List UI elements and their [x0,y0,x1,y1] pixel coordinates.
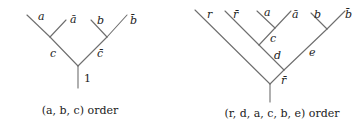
label-a-bar: ā [292,8,299,21]
edge-r [195,10,270,84]
caption-left: (a, b, c) order [42,104,119,117]
label-e: e [309,46,316,59]
label-c: c [50,47,56,60]
caption-right: (r, d, a, c, b, e) order [224,107,340,120]
edge-b-bar [107,15,127,37]
label-a: a [38,10,45,23]
label-a: a [264,6,271,19]
label-c: c [270,32,276,45]
diagram-canvas: a ā b b̄ c c̄ 1 (a, b, c) order r r̄ a [0,0,364,128]
label-d: d [274,49,281,62]
label-r-bar-root: r̄ [281,74,287,87]
label-b-bar: b̄ [345,8,352,21]
left-tree: a ā b b̄ c c̄ 1 (a, b, c) order [27,10,137,117]
edge-r-bar-leaf [225,11,259,45]
label-r-bar-leaf: r̄ [233,8,239,21]
edge-b-bar [327,11,345,29]
label-a-bar: ā [70,13,77,26]
label-root-1: 1 [84,72,91,85]
label-r: r [207,8,213,21]
right-tree: r r̄ a ā b b̄ c d e r̄ (r, d, a, c, b, e… [195,6,352,120]
edge-e [284,29,327,70]
label-c-bar: c̄ [97,47,104,60]
label-b: b [97,14,104,27]
edge-a-bar [50,20,66,37]
label-b: b [314,8,321,21]
edge-a-bar [275,11,291,28]
label-b-bar: b̄ [130,14,137,27]
